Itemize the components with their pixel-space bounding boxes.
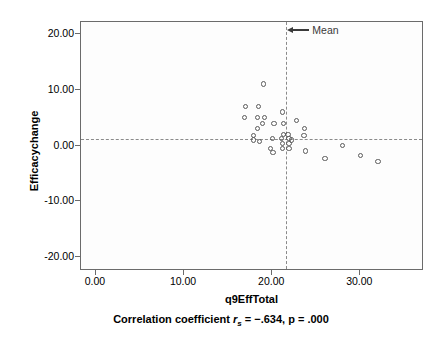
y-axis-tick-label: 20.00 xyxy=(0,27,74,39)
x-axis-tick-mark xyxy=(271,270,272,275)
x-axis-title: q9EffTotal xyxy=(80,293,423,305)
data-point xyxy=(271,121,276,126)
x-axis-tick-label: 30.00 xyxy=(329,275,389,287)
y-axis-tick-label: -20.00 xyxy=(0,250,74,262)
x-axis-tick-label: 20.00 xyxy=(241,275,301,287)
caption-prefix: Correlation coefficient xyxy=(113,313,233,325)
data-point xyxy=(242,115,247,120)
y-axis-tick-mark xyxy=(75,256,80,257)
caption-stats: = −.634, p = .000 xyxy=(242,313,329,325)
data-point xyxy=(280,146,285,151)
data-point xyxy=(322,156,327,161)
data-point xyxy=(280,109,285,114)
mean-annotation-label: Mean xyxy=(312,24,338,36)
data-point xyxy=(260,121,265,126)
mean-annotation: Mean xyxy=(287,24,338,36)
data-point xyxy=(255,126,260,131)
y-axis-title: Efficacychange xyxy=(28,71,40,231)
data-point xyxy=(257,139,262,144)
data-point xyxy=(286,146,291,151)
x-axis-tick-mark xyxy=(359,270,360,275)
data-point xyxy=(340,143,345,148)
scatter-plot-figure: 20.0010.000.00-10.00-20.000.0010.0020.00… xyxy=(0,0,442,341)
plot-area xyxy=(81,22,422,269)
y-axis-tick-mark xyxy=(75,89,80,90)
data-point xyxy=(301,133,306,138)
y-axis-tick-mark xyxy=(75,145,80,146)
data-point xyxy=(256,104,261,109)
data-point xyxy=(358,153,363,158)
chart-caption: Correlation coefficient rs = −.634, p = … xyxy=(0,313,442,328)
data-point xyxy=(255,115,260,120)
x-axis-tick-mark xyxy=(183,270,184,275)
x-axis-tick-label: 0.00 xyxy=(65,275,125,287)
y-axis-tick-mark xyxy=(75,200,80,201)
x-axis-tick-label: 10.00 xyxy=(153,275,213,287)
x-axis-tick-mark xyxy=(95,270,96,275)
data-point xyxy=(262,115,267,120)
data-point xyxy=(286,141,291,146)
y-axis-tick-mark xyxy=(75,33,80,34)
data-point xyxy=(243,104,248,109)
data-point xyxy=(375,159,380,164)
plot-frame xyxy=(80,21,423,270)
data-point xyxy=(281,121,286,126)
data-point xyxy=(294,118,299,123)
data-point xyxy=(251,137,256,142)
data-point xyxy=(303,148,308,153)
data-point xyxy=(270,150,275,155)
data-point xyxy=(270,136,275,141)
data-point xyxy=(302,126,307,131)
arrow-left-icon xyxy=(287,25,309,34)
data-point xyxy=(261,81,266,86)
